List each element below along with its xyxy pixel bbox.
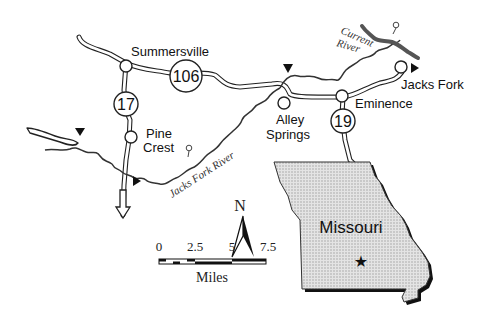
scale-tick-2-5: 2.5 — [187, 239, 203, 254]
access-triangle-icon — [133, 176, 141, 186]
town-label-eminence: Eminence — [355, 96, 413, 111]
highway-106-label: 106 — [173, 68, 200, 85]
highway-17-label: 17 — [117, 96, 135, 113]
map-canvas: 106 17 19 Summersville Pine Crest Alley … — [0, 0, 493, 322]
town-label-crest: Crest — [143, 140, 174, 155]
access-triangle-icon — [75, 128, 85, 136]
scale-tick-5: 5 — [229, 239, 236, 254]
access-triangle-icon — [411, 63, 419, 73]
north-arrow: N — [232, 197, 254, 257]
scale-tick-0: 0 — [156, 239, 163, 254]
river-label-jacks-fork: Jacks Fork River — [167, 148, 237, 199]
spring-pin-icon — [186, 145, 192, 157]
state-label: Missouri — [319, 218, 382, 237]
town-marker-jacks-fork — [395, 61, 407, 73]
town-label-jacks-fork: Jacks Fork — [401, 77, 464, 92]
town-marker-alley-springs — [278, 97, 290, 109]
town-marker-pine-crest — [125, 131, 137, 143]
town-label-alley: Alley — [276, 112, 305, 127]
town-label-springs: Springs — [266, 127, 311, 142]
town-marker-summersville — [120, 60, 132, 72]
scale-unit-label: Miles — [196, 270, 228, 285]
highway-19-label: 19 — [334, 113, 352, 130]
missouri-inset: Missouri ★ — [274, 162, 433, 305]
access-triangle-icon — [283, 64, 293, 73]
north-arrow-right-icon — [243, 216, 254, 257]
scale-tick-7-5: 7.5 — [260, 239, 276, 254]
spring-pin-icon — [393, 22, 399, 34]
north-label: N — [234, 197, 246, 214]
location-star-icon: ★ — [354, 252, 368, 271]
town-marker-eminence — [336, 90, 348, 102]
road-arrow-south — [116, 190, 130, 218]
town-label-summersville: Summersville — [131, 44, 209, 59]
town-label-pine: Pine — [146, 126, 172, 141]
scale-bar: 0 2.5 5 7.5 Miles — [156, 239, 276, 285]
